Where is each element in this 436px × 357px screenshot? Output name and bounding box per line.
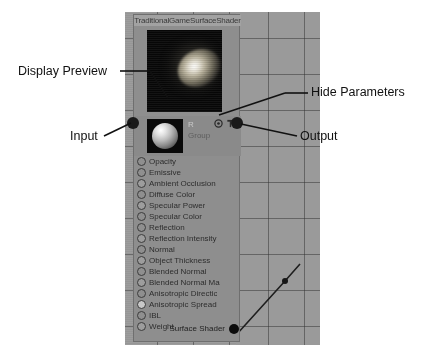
display-preview-thumbnail[interactable] [147,30,222,112]
swatch-label: R [188,120,194,129]
grid-lines-right [236,12,320,345]
input-port-row[interactable]: Specular Power [134,200,241,211]
input-port-label: Anisotropic Spread [149,299,217,310]
node-output-connector[interactable] [231,117,243,129]
input-port-row[interactable]: Emissive [134,167,241,178]
input-port-row[interactable]: Reflection [134,222,241,233]
annotation-input: Input [70,129,98,143]
input-port-dot[interactable] [137,168,146,177]
input-port-dot[interactable] [137,256,146,265]
input-port-dot[interactable] [137,201,146,210]
input-port-list: OpacityEmissiveAmbient OcclusionDiffuse … [134,156,241,332]
input-port-row[interactable]: Anisotropic Directic [134,288,241,299]
annotation-output: Output [300,129,338,143]
input-port-label: Object Thickness [149,255,210,266]
input-port-label: Diffuse Color [149,189,195,200]
node-graph-canvas-right[interactable] [236,12,320,345]
input-port-row[interactable]: Specular Color [134,211,241,222]
input-port-row[interactable]: Object Thickness [134,255,241,266]
shader-node[interactable]: TraditionalGameSurfaceShader R Group Opa… [133,14,240,342]
input-port-dot[interactable] [137,223,146,232]
input-port-label: Opacity [149,156,176,167]
input-port-row[interactable]: Diffuse Color [134,189,241,200]
screenshot-stage: TraditionalGameSurfaceShader R Group Opa… [0,0,436,357]
input-port-label: Emissive [149,167,181,178]
input-port-label: Specular Power [149,200,205,211]
input-port-label: Anisotropic Directic [149,288,217,299]
output-port-dot[interactable] [229,324,239,334]
output-port-label: Surface Shader [169,323,225,335]
input-port-dot[interactable] [137,212,146,221]
input-port-row[interactable]: Opacity [134,156,241,167]
input-port-row[interactable]: Ambient Occlusion [134,178,241,189]
input-port-dot[interactable] [137,234,146,243]
annotation-hide-parameters: Hide Parameters [311,85,405,99]
input-port-label: Reflection Intensity [149,233,217,244]
material-sphere [152,123,178,149]
input-port-label: Reflection [149,222,185,233]
input-port-label: IBL [149,310,161,321]
input-port-row[interactable]: IBL [134,310,241,321]
input-port-label: Blended Normal Ma [149,277,220,288]
group-label: Group [188,131,210,140]
input-port-dot[interactable] [137,278,146,287]
node-header-row: R Group [134,116,241,156]
material-swatch[interactable] [147,119,183,153]
input-port-label: Ambient Occlusion [149,178,216,189]
input-port-row[interactable]: Normal [134,244,241,255]
output-port-row[interactable]: Surface Shader [134,323,241,335]
input-port-label: Normal [149,244,175,255]
input-port-dot[interactable] [137,300,146,309]
input-port-dot[interactable] [137,157,146,166]
input-port-dot[interactable] [137,179,146,188]
input-port-dot[interactable] [137,245,146,254]
input-port-dot[interactable] [137,311,146,320]
node-input-connector[interactable] [127,117,139,129]
input-port-row[interactable]: Blended Normal Ma [134,277,241,288]
node-title: TraditionalGameSurfaceShader [134,15,241,26]
preview-noise [147,30,222,112]
input-port-dot[interactable] [137,289,146,298]
annotation-display-preview: Display Preview [18,64,107,78]
input-port-dot[interactable] [137,190,146,199]
input-port-label: Blended Normal [149,266,206,277]
input-port-row[interactable]: Blended Normal [134,266,241,277]
input-port-label: Specular Color [149,211,202,222]
input-port-dot[interactable] [137,267,146,276]
input-port-row[interactable]: Reflection Intensity [134,233,241,244]
input-port-row[interactable]: Anisotropic Spread [134,299,241,310]
eye-icon[interactable] [214,119,223,128]
